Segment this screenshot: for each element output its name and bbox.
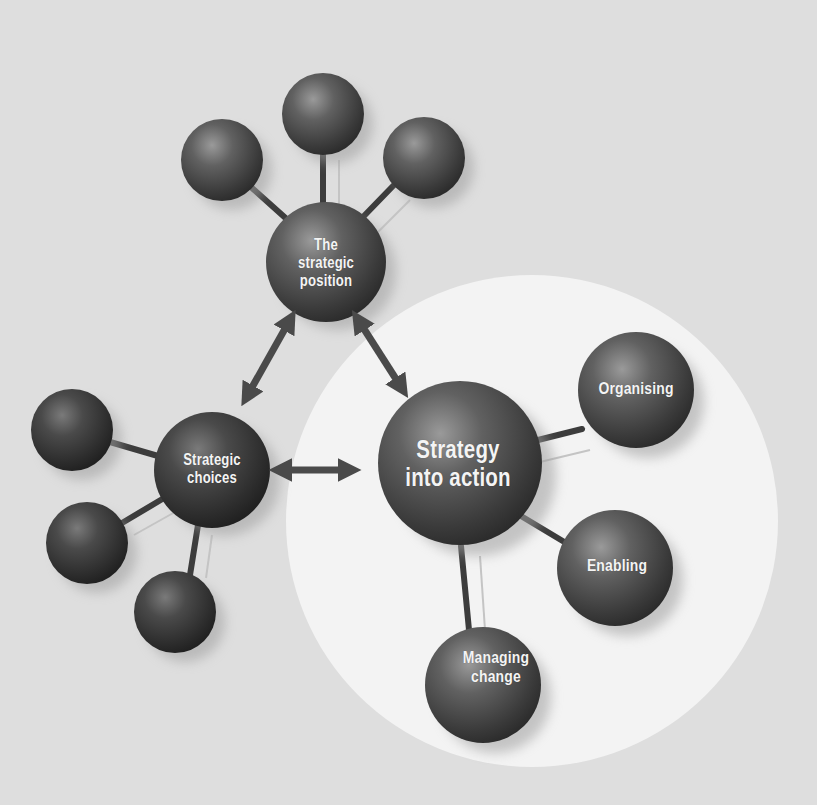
satellite-ball-position-3 (383, 117, 465, 199)
label-strategic-choices: Strategic choices (183, 451, 241, 487)
label-enabling: Enabling (587, 556, 647, 575)
label-strategy-into-action: Strategy into action (405, 436, 510, 491)
label-managing-change: Managing change (463, 648, 529, 686)
satellite-ball-position-2 (282, 73, 364, 155)
satellite-ball-choices-1 (31, 389, 113, 471)
satellite-ball-choices-3 (134, 571, 216, 653)
satellite-ball-choices-2 (46, 502, 128, 584)
strategy-diagram (0, 0, 817, 805)
label-organising: Organising (598, 379, 673, 398)
satellite-ball-position-1 (181, 119, 263, 201)
label-strategic-position: The strategic position (298, 236, 354, 290)
arrow-position-choices (246, 318, 291, 398)
